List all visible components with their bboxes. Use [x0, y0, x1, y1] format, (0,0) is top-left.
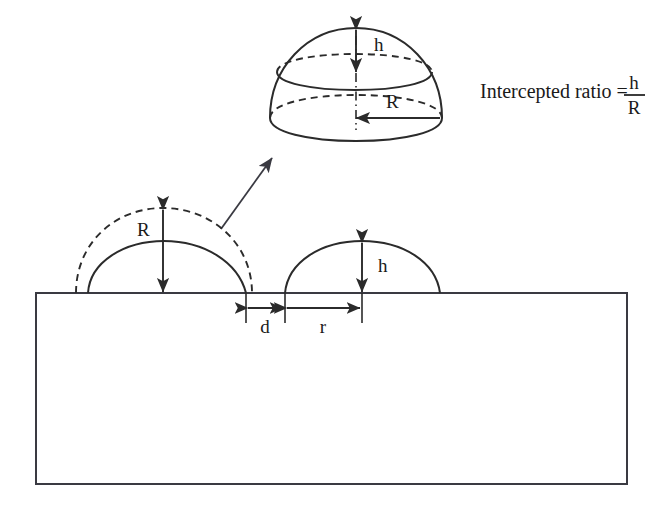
ratio-denominator: R [628, 97, 641, 118]
d-label: d [260, 316, 270, 337]
profile-h-label: h [378, 255, 388, 276]
ratio-numerator: h [629, 72, 639, 93]
callout-R-label: R [386, 91, 399, 112]
left-dome-solid-arc [88, 241, 246, 293]
cut-plane-ellipse-back-dashed [277, 54, 432, 72]
r-label: r [320, 316, 327, 337]
profile-R-label: R [137, 219, 150, 240]
callout-h-label: h [374, 34, 384, 55]
left-dome-dashed-arc [76, 208, 252, 293]
intercepted-ratio-figure: h R Intercepted ratio = h R R h [0, 0, 664, 506]
substrate-block [36, 293, 627, 484]
cut-plane-ellipse-front [277, 72, 432, 90]
callout-connector-arrow [221, 158, 272, 229]
right-dome-group: h [285, 241, 440, 293]
left-dome-group: R [76, 208, 252, 293]
intercepted-ratio-text: Intercepted ratio = [480, 80, 628, 103]
hemisphere-detail: h R Intercepted ratio = h R [270, 28, 645, 141]
